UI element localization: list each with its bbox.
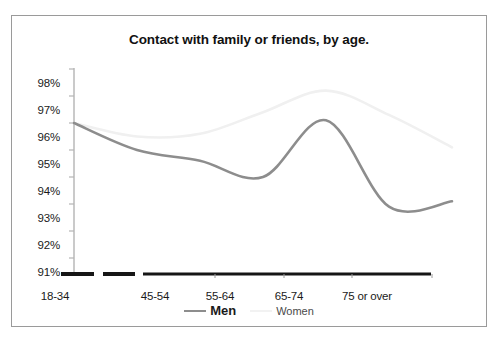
series-line-women [74,91,452,148]
chart-card: Contact with family or friends, by age. … [11,15,487,327]
y-axis-ticks [69,69,74,258]
legend-swatch-icon [184,310,206,312]
legend-item-women[interactable]: Women [250,305,314,317]
legend-item-men[interactable]: Men [184,303,236,318]
legend-label-women: Women [276,305,314,317]
chart-legend: Men Women [12,303,486,318]
legend-label-men: Men [210,303,236,318]
legend-swatch-icon [250,310,272,312]
series-line-men [74,120,452,212]
plot-area [12,16,488,328]
